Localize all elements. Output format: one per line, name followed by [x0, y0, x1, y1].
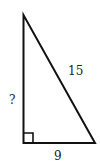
- horizontal-leg-label: 9: [54, 149, 62, 162]
- triangle-diagram: ? 15 9: [0, 0, 100, 162]
- triangle-shape: [24, 15, 96, 143]
- hypotenuse-label: 15: [68, 64, 83, 78]
- vertical-leg-label: ?: [9, 93, 15, 107]
- right-angle-marker: [24, 133, 34, 143]
